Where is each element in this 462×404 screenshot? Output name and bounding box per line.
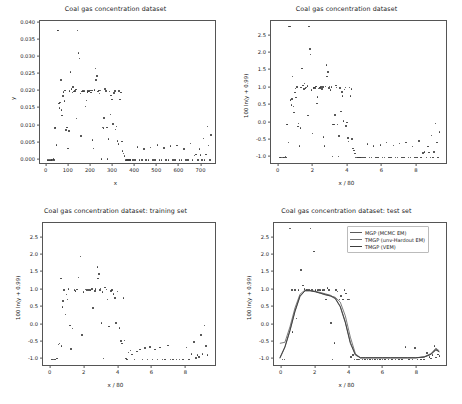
- data-point: [63, 91, 65, 93]
- data-point: [86, 100, 88, 102]
- data-point: [74, 90, 76, 92]
- data-point: [314, 87, 316, 89]
- x-tick-mark: [280, 366, 281, 368]
- data-point: [183, 148, 185, 150]
- data-point: [369, 157, 371, 159]
- data-point: [343, 120, 345, 122]
- data-point: [113, 293, 115, 295]
- data-point: [191, 353, 193, 355]
- data-point: [62, 95, 64, 97]
- legend-line-icon: [350, 232, 362, 233]
- plot-area: [39, 20, 216, 164]
- y-tick-label: 0.0: [231, 321, 269, 327]
- data-point: [56, 358, 58, 360]
- x-tick-mark: [45, 164, 46, 166]
- data-point: [203, 138, 205, 140]
- data-point: [427, 146, 429, 148]
- x-tick-label: 6: [381, 369, 384, 375]
- data-point: [116, 126, 118, 128]
- data-point: [186, 347, 188, 349]
- data-point: [117, 140, 119, 142]
- data-point: [115, 129, 117, 131]
- data-point: [78, 277, 80, 279]
- y-tick-label: 0.005: [0, 139, 35, 145]
- y-tick-label: 0.030: [0, 53, 35, 59]
- data-point: [143, 148, 145, 150]
- data-point: [176, 145, 178, 147]
- data-point: [351, 138, 353, 140]
- y-axis-label: 100 ln(y + 0.99): [243, 74, 249, 118]
- x-tick-label: 700: [196, 167, 206, 173]
- data-point: [306, 87, 308, 89]
- data-point: [108, 138, 110, 140]
- x-tick-label: 4: [345, 167, 348, 173]
- data-point: [122, 150, 124, 152]
- data-point: [181, 159, 183, 161]
- data-point: [80, 93, 82, 95]
- y-tick-mark: [37, 56, 39, 57]
- x-tick-mark: [348, 366, 349, 368]
- data-point: [341, 91, 343, 93]
- data-point: [95, 68, 97, 70]
- data-point: [64, 100, 66, 102]
- data-point: [120, 340, 122, 342]
- x-tick-label: 200: [85, 167, 95, 173]
- data-point: [291, 104, 293, 106]
- data-point: [113, 92, 115, 94]
- data-point: [317, 96, 319, 98]
- data-point: [436, 142, 438, 144]
- data-point: [190, 143, 192, 145]
- data-point: [384, 157, 386, 159]
- y-tick-mark: [271, 271, 273, 272]
- data-point: [437, 157, 439, 159]
- data-point: [321, 88, 323, 90]
- data-point: [331, 86, 333, 88]
- y-tick-label: 0.025: [0, 70, 35, 76]
- data-point: [348, 141, 350, 143]
- data-point: [412, 146, 414, 148]
- legend-line-icon: [350, 246, 362, 247]
- scatter-layer: [271, 21, 446, 163]
- data-point: [344, 89, 346, 91]
- x-tick-label: 4: [347, 369, 350, 375]
- legend-item[interactable]: TMGP (VEM): [350, 243, 425, 250]
- y-tick-mark: [271, 288, 273, 289]
- data-point: [172, 359, 174, 361]
- data-point: [66, 127, 68, 129]
- data-point: [67, 299, 69, 301]
- data-point: [103, 127, 105, 129]
- data-point: [364, 157, 366, 159]
- data-point: [410, 157, 412, 159]
- y-tick-label: 1.5: [231, 268, 269, 274]
- figure-canvas: Coal gas concentration dataset y 0.0000.…: [0, 0, 462, 404]
- data-point: [302, 85, 304, 87]
- x-axis-label: x: [0, 180, 231, 186]
- data-point: [345, 125, 347, 127]
- data-point: [68, 288, 70, 290]
- legend-item[interactable]: MGP (MCMC EM): [350, 229, 425, 236]
- data-point: [93, 148, 95, 150]
- data-point: [202, 353, 204, 355]
- y-tick-label: 2.0: [231, 49, 266, 55]
- data-point: [197, 159, 199, 161]
- data-point: [114, 90, 116, 92]
- data-point: [377, 157, 379, 159]
- x-tick-label: 0: [48, 369, 51, 375]
- x-tick-label: 4: [116, 369, 119, 375]
- data-point: [347, 137, 349, 139]
- data-point: [205, 154, 207, 156]
- y-tick-label: -1.0: [231, 355, 269, 361]
- data-point: [81, 334, 83, 336]
- legend-item[interactable]: TMGP (unv-Hardout EM): [350, 236, 425, 243]
- legend[interactable]: MGP (MCMC EM)TMGP (unv-Hardout EM)TMGP (…: [347, 226, 429, 253]
- legend-label: MGP (MCMC EM): [365, 230, 406, 236]
- data-point: [435, 123, 437, 125]
- data-point: [59, 102, 61, 104]
- data-point: [431, 135, 433, 137]
- y-tick-mark: [268, 34, 270, 35]
- x-tick-label: 0: [44, 167, 47, 173]
- data-point: [123, 153, 125, 155]
- data-point: [309, 48, 311, 50]
- data-point: [76, 289, 78, 291]
- data-point: [336, 87, 338, 89]
